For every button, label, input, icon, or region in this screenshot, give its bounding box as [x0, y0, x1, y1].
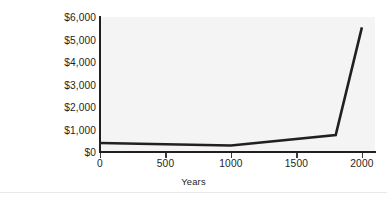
income-line-series — [100, 27, 362, 145]
y-axis-tick-label: $6,000 — [64, 12, 96, 23]
y-axis-tick-labels: $0$1,000$2,000$3,000$4,000$5,000$6,000 — [38, 0, 96, 199]
data-line-svg — [100, 17, 375, 152]
plot-area — [100, 17, 375, 152]
chart-figure: Per capita income (in 1990 international… — [0, 0, 387, 199]
x-axis-tick-label: 1500 — [285, 158, 308, 169]
y-axis-spine — [99, 16, 101, 153]
y-axis-tick-label: $1,000 — [64, 124, 96, 135]
x-axis-tick-label: 0 — [97, 158, 103, 169]
y-axis-tick-label: $4,000 — [64, 57, 96, 68]
y-axis-tick-label: $5,000 — [64, 34, 96, 45]
figure-bottom-rule — [0, 192, 387, 193]
x-axis-tick-label: 1000 — [219, 158, 242, 169]
y-axis-tick-label: $2,000 — [64, 102, 96, 113]
x-axis-tick-label: 500 — [157, 158, 175, 169]
x-axis-tick-label: 2000 — [350, 158, 373, 169]
x-axis-spine — [99, 151, 376, 153]
y-axis-tick-label: $0 — [84, 147, 96, 158]
y-axis-tick-label: $3,000 — [64, 79, 96, 90]
x-axis-title: Years — [0, 176, 387, 187]
